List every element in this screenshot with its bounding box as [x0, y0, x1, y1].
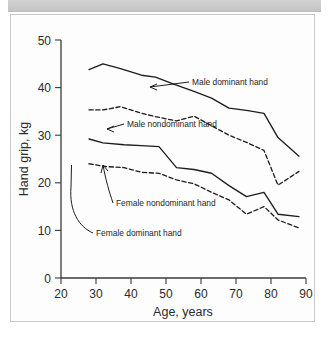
annotation-male-dominant-hand: Male dominant hand	[192, 77, 268, 87]
x-axis	[61, 278, 306, 284]
x-tick-label-30: 30	[89, 287, 103, 301]
y-axis	[55, 40, 61, 278]
y-tick-label-40: 40	[38, 81, 52, 95]
x-tick-label-50: 50	[159, 287, 173, 301]
series-line-female-nondominant	[89, 164, 299, 228]
annotation-female-dominant-hand: Female dominant hand	[96, 228, 182, 238]
annotation-female-nondominant-hand: Female nondominant hand	[116, 198, 216, 208]
x-tick-label-40: 40	[124, 287, 138, 301]
y-tick-label-30: 30	[38, 129, 52, 143]
x-tick-label-90: 90	[299, 287, 313, 301]
x-tick-label-80: 80	[264, 287, 278, 301]
x-tick-label-60: 60	[194, 287, 208, 301]
figure-card: 50 40 30 20 10 0 20 30 40 50 60 70 80 90…	[10, 14, 315, 322]
y-tick-label-50: 50	[38, 34, 52, 48]
window-header-bar	[8, 0, 321, 12]
x-tick-label-20: 20	[54, 287, 68, 301]
leader-female-nondominant	[101, 165, 113, 203]
y-tick-label-0: 0	[44, 272, 51, 286]
y-axis-title: Hand grip, kg	[17, 122, 31, 196]
leader-male-dominant	[150, 82, 189, 90]
y-tick-label-20: 20	[38, 176, 52, 190]
x-tick-label-70: 70	[229, 287, 243, 301]
leader-male-nondominant	[107, 124, 124, 132]
annotation-male-nondominant-hand: Male nondominant hand	[127, 119, 217, 129]
leader-female-dominant	[71, 165, 93, 233]
x-axis-title: Age, years	[153, 305, 213, 319]
hand-grip-line-chart: 50 40 30 20 10 0 20 30 40 50 60 70 80 90…	[11, 15, 314, 321]
y-tick-label-10: 10	[38, 224, 52, 238]
